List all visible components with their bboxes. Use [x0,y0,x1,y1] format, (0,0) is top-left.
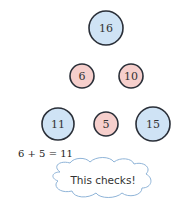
node-label: 5 [103,118,110,131]
node-label: 6 [79,70,86,83]
node-bottom-center: 5 [94,112,118,136]
node-mid-left: 6 [70,64,94,88]
node-mid-right: 10 [119,64,143,88]
equation-text: 6 + 5 = 11 [18,148,73,159]
node-label: 16 [99,22,113,35]
node-label: 10 [124,70,138,83]
speech-cloud: This checks! [53,158,151,198]
node-label: 15 [146,118,160,131]
number-triangle-diagram: 1661011515 6 + 5 = 11 This checks! [0,0,178,211]
node-label: 11 [51,118,65,131]
node-top: 16 [89,11,123,45]
callout-text: This checks! [69,174,135,186]
node-bottom-left: 11 [42,108,74,140]
node-bottom-right: 15 [136,107,170,141]
